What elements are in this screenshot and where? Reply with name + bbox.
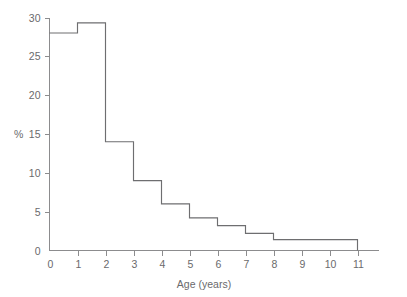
x-tick-label: 9 [300,258,306,270]
y-tick-label: 10 [29,167,41,179]
x-tick-label: 7 [244,258,250,270]
x-tick-label: 5 [188,258,194,270]
histogram-chart: 051015202530 01234567891011 % Age (years… [0,0,407,297]
x-tick-label: 6 [216,258,222,270]
x-tick-label: 1 [76,258,82,270]
x-tick-label: 10 [325,258,337,270]
y-tick-label: 0 [35,245,41,257]
y-tick-label: 25 [29,50,41,62]
chart-background [0,0,407,297]
x-tick-label: 2 [104,258,110,270]
x-tick-label: 4 [160,258,166,270]
x-tick-label: 3 [132,258,138,270]
x-tick-label: 8 [272,258,278,270]
x-tick-label: 11 [353,258,364,270]
x-tick-label: 0 [48,258,54,270]
y-tick-label: 5 [35,206,41,218]
y-axis-title: % [14,128,23,140]
chart-figure: 051015202530 01234567891011 % Age (years… [0,0,407,297]
y-tick-label: 20 [29,89,41,101]
x-axis-title: Age (years) [177,278,231,290]
y-tick-label: 30 [29,12,41,24]
y-tick-label: 15 [29,128,41,140]
